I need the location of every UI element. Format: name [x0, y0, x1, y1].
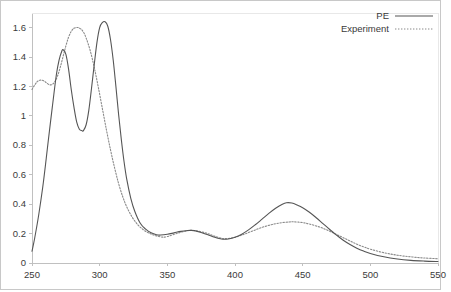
axis-lines [32, 13, 438, 263]
x-tick-label: 350 [147, 270, 187, 280]
chart-legend: PE Experiment [341, 9, 434, 35]
axis-ticks [29, 28, 438, 266]
y-tick-label: 0.4 [1, 199, 26, 209]
x-tick-label: 450 [283, 270, 323, 280]
x-tick-label: 400 [215, 270, 255, 280]
x-tick-label: 550 [418, 270, 451, 280]
legend-label-experiment: Experiment [341, 24, 389, 34]
x-tick-label: 300 [80, 270, 120, 280]
y-tick-label: 1.4 [1, 52, 26, 62]
legend-swatch-experiment [394, 25, 434, 33]
x-tick-label: 250 [12, 270, 52, 280]
y-tick-label: 1 [1, 111, 26, 121]
chart-figure: 00.20.40.60.811.21.41.6 2503003504004505… [0, 0, 441, 290]
y-tick-label: 0.8 [1, 140, 26, 150]
series-line-pe [32, 22, 438, 262]
y-tick-label: 1.6 [1, 23, 26, 33]
y-tick-label: 0.6 [1, 170, 26, 180]
series-line-experiment [32, 27, 438, 258]
y-tick-label: 0.2 [1, 229, 26, 239]
legend-item-experiment: Experiment [341, 22, 434, 35]
plot-canvas [1, 1, 442, 291]
legend-item-pe: PE [341, 9, 434, 22]
y-tick-label: 0 [1, 258, 26, 268]
legend-label-pe: PE [376, 11, 389, 21]
legend-swatch-pe [394, 12, 434, 20]
y-tick-label: 1.2 [1, 82, 26, 92]
x-tick-label: 500 [350, 270, 390, 280]
